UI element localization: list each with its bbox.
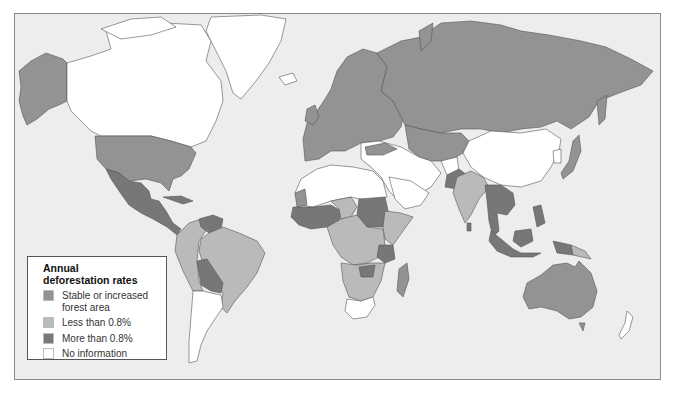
region-zambia [359, 265, 375, 277]
region-tanzania [377, 245, 395, 263]
legend-label-low: Less than 0.8% [62, 317, 131, 329]
region-canada [67, 23, 223, 147]
region-japan [561, 135, 581, 179]
region-new-zealand [619, 311, 633, 339]
legend-item-stable: Stable or increased forest area [43, 290, 160, 313]
legend-label-none: No information [62, 348, 127, 360]
map-legend: Annual deforestation rates Stable or inc… [27, 256, 167, 360]
legend-item-none: No information [43, 348, 160, 360]
legend-swatch-high [43, 333, 54, 344]
legend-swatch-none [43, 348, 54, 359]
legend-title: Annual deforestation rates [43, 262, 160, 286]
region-madagascar [397, 263, 409, 297]
region-southeast-asia [485, 185, 515, 237]
region-usa [95, 136, 196, 191]
region-new-guinea-west [553, 241, 573, 255]
region-caribbean [163, 196, 193, 204]
region-iceland [279, 73, 297, 85]
region-india [453, 171, 489, 223]
legend-label-stable: Stable or increased forest area [62, 290, 148, 313]
region-papua-new-guinea [571, 245, 591, 259]
legend-item-low: Less than 0.8% [43, 317, 160, 329]
legend-swatch-low [43, 317, 54, 328]
region-korea [553, 149, 561, 163]
region-borneo [513, 229, 533, 247]
region-sri-lanka [467, 223, 471, 231]
region-tasmania [579, 323, 585, 331]
region-east-africa [383, 211, 413, 245]
legend-item-high: More than 0.8% [43, 333, 160, 345]
legend-title-line2: deforestation rates [43, 274, 160, 286]
region-russia [377, 21, 653, 133]
legend-label-high: More than 0.8% [62, 333, 133, 345]
legend-swatch-stable [43, 290, 54, 301]
region-argentina-chile [189, 291, 223, 363]
region-philippines [533, 205, 545, 227]
region-australia [523, 261, 597, 319]
region-alaska [19, 53, 67, 125]
legend-title-line1: Annual [43, 262, 160, 274]
